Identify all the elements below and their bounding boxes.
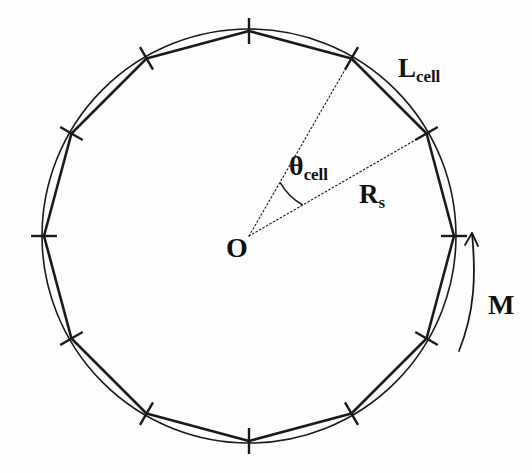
moment-arrow-icon — [459, 233, 478, 351]
label-stator-radius-sub: s — [379, 193, 386, 212]
label-cell-angle-base: θ — [289, 150, 304, 181]
cell-angle-arc — [280, 182, 303, 205]
label-cell-angle-sub: cell — [304, 165, 328, 184]
label-cell-angle: θcell — [289, 152, 328, 183]
label-stator-radius-base: R — [359, 179, 379, 209]
label-center-point-base: O — [226, 232, 248, 263]
label-moment: M — [488, 291, 514, 319]
label-stator-radius: Rs — [359, 181, 385, 211]
figure-canvas: Lcell θcell Rs O M — [0, 0, 532, 473]
label-cell-length-sub: cell — [416, 67, 440, 86]
label-cell-length-base: L — [398, 53, 416, 83]
geometry-diagram — [0, 0, 532, 473]
label-cell-length: Lcell — [398, 55, 440, 85]
label-moment-base: M — [488, 289, 514, 320]
label-center-point: O — [226, 234, 248, 262]
